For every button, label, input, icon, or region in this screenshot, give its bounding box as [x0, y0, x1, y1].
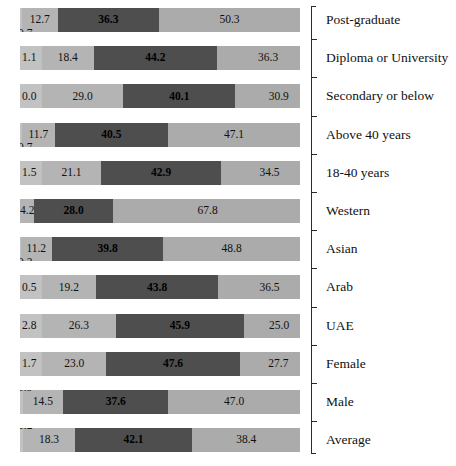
axis-tick [311, 154, 317, 155]
category-label-western: Western [326, 204, 370, 218]
segment-value-label: 47.6 [163, 358, 183, 370]
axis-tick [311, 77, 317, 78]
segment-value-label: 36.5 [259, 282, 279, 294]
segment-value-label: 43.8 [147, 282, 167, 294]
bar-segment-3: 40.5 [55, 123, 168, 147]
axis-tick [311, 345, 317, 346]
category-label-post-graduate: Post-graduate [326, 13, 400, 27]
bar-segment-4: 47.0 [168, 390, 300, 414]
segment-value-label: 50.3 [219, 14, 239, 26]
segment-value-label: 44.2 [145, 52, 165, 64]
bar-segment-4: 25.0 [244, 314, 300, 338]
bar-row: 1.521.142.934.5 [20, 161, 300, 185]
category-label-asian: Asian [326, 242, 358, 256]
category-label-male: Male [326, 395, 354, 409]
segment-value-label: 42.1 [123, 434, 143, 446]
category-label-diploma-or-university: Diploma or University [326, 51, 448, 65]
bar-track: 1.118.444.236.3 [20, 46, 300, 70]
bar-track: 0.211.239.848.8 [20, 237, 300, 261]
bar-segment-2: 11.2 [21, 237, 52, 261]
segment-value-label: 1.7 [22, 358, 36, 370]
axis-tick [311, 421, 317, 422]
segment-value-label: 11.2 [26, 243, 46, 255]
segment-value-label: 18.3 [39, 434, 59, 446]
segment-value-label: 2.8 [22, 320, 36, 332]
bar-segment-3: 28.0 [34, 199, 112, 223]
bar-segment-3: 43.8 [96, 275, 219, 299]
segment-value-label: 45.9 [170, 320, 190, 332]
bar-track: 1.218.342.138.4 [20, 428, 300, 452]
axis-tick [311, 383, 317, 384]
stacked-bar-chart: 0.712.736.350.31.118.444.236.30.029.040.… [0, 0, 456, 466]
segment-value-label: 18.4 [58, 52, 78, 64]
bar-segment-3: 37.6 [63, 390, 168, 414]
segment-value-label: 36.3 [98, 14, 118, 26]
axis-cap-top [311, 6, 316, 7]
segment-value-label: 23.0 [64, 358, 84, 370]
bar-row: 0.712.736.350.3 [20, 8, 300, 32]
bar-segment-4: 36.3 [217, 46, 300, 70]
segment-value-label: 1.5 [22, 167, 36, 179]
bar-segment-4: 27.7 [240, 352, 300, 376]
bar-track: 0.914.537.647.0 [20, 390, 300, 414]
bar-track: 2.826.345.925.0 [20, 314, 300, 338]
segment-value-label: 25.0 [269, 320, 289, 332]
bar-track: 0.029.040.130.9 [20, 84, 300, 108]
bar-track: 0.519.243.836.5 [20, 275, 300, 299]
bar-row: 2.826.345.925.0 [20, 314, 300, 338]
bar-segment-2: 29.0 [42, 84, 123, 108]
bar-row: 1.723.047.627.7 [20, 352, 300, 376]
bar-segment-2: 21.1 [42, 161, 101, 185]
segment-value-label: 30.9 [269, 91, 289, 103]
bar-segment-3: 42.9 [101, 161, 221, 185]
segment-value-label: 11.7 [28, 129, 48, 141]
axis-tick [311, 192, 317, 193]
bar-segment-4: 38.4 [192, 428, 300, 452]
bar-segment-2: 18.4 [42, 46, 94, 70]
segment-value-label: 12.7 [30, 14, 50, 26]
category-label-18-40-years: 18-40 years [326, 166, 389, 180]
segment-value-label: 26.3 [69, 320, 89, 332]
bar-segment-1: 0.0 [20, 84, 42, 108]
bar-segment-2: 4.2 [20, 199, 34, 223]
category-label-above-40-years: Above 40 years [326, 128, 411, 142]
bar-segment-4: 34.5 [221, 161, 300, 185]
segment-value-label: 19.2 [59, 282, 79, 294]
bar-row: 0.711.740.547.1 [20, 123, 300, 147]
bar-segment-3: 39.8 [52, 237, 163, 261]
bar-track: 1.521.142.934.5 [20, 161, 300, 185]
bar-segment-3: 45.9 [116, 314, 245, 338]
bar-track: 0.711.740.547.1 [20, 123, 300, 147]
segment-value-label: 21.1 [61, 167, 81, 179]
segment-value-label: 1.1 [22, 52, 36, 64]
category-label-secondary-or-below: Secondary or below [326, 89, 434, 103]
bar-segment-4: 30.9 [235, 84, 300, 108]
segment-value-label: 48.8 [222, 243, 242, 255]
bar-segment-3: 36.3 [58, 8, 160, 32]
category-label-female: Female [326, 357, 366, 371]
segment-value-label: 67.8 [198, 205, 218, 217]
bar-track: 0.712.736.350.3 [20, 8, 300, 32]
bar-row: 1.218.342.138.4 [20, 428, 300, 452]
bar-track: 4.228.067.8 [20, 199, 300, 223]
segment-value-label: 37.6 [106, 396, 126, 408]
plot-area: 0.712.736.350.31.118.444.236.30.029.040.… [20, 0, 300, 466]
segment-value-label: 38.4 [236, 434, 256, 446]
bar-segment-1: 0.5 [20, 275, 42, 299]
bar-segment-1: 2.8 [20, 314, 42, 338]
category-label-arab: Arab [326, 280, 353, 294]
segment-value-label: 42.9 [151, 167, 171, 179]
segment-value-label: 0.0 [22, 91, 36, 103]
bar-row: 4.228.067.8 [20, 199, 300, 223]
bar-segment-4: 47.1 [168, 123, 300, 147]
segment-value-label: 28.0 [64, 205, 84, 217]
bar-segment-1: 1.1 [20, 46, 42, 70]
bar-segment-4: 50.3 [159, 8, 300, 32]
bar-segment-4: 48.8 [163, 237, 300, 261]
bar-row: 0.519.243.836.5 [20, 275, 300, 299]
segment-value-label: 29.0 [73, 91, 93, 103]
bar-segment-3: 42.1 [75, 428, 193, 452]
segment-value-label: 14.5 [33, 396, 53, 408]
segment-value-label: 34.5 [259, 167, 279, 179]
bar-segment-2: 12.7 [22, 8, 58, 32]
